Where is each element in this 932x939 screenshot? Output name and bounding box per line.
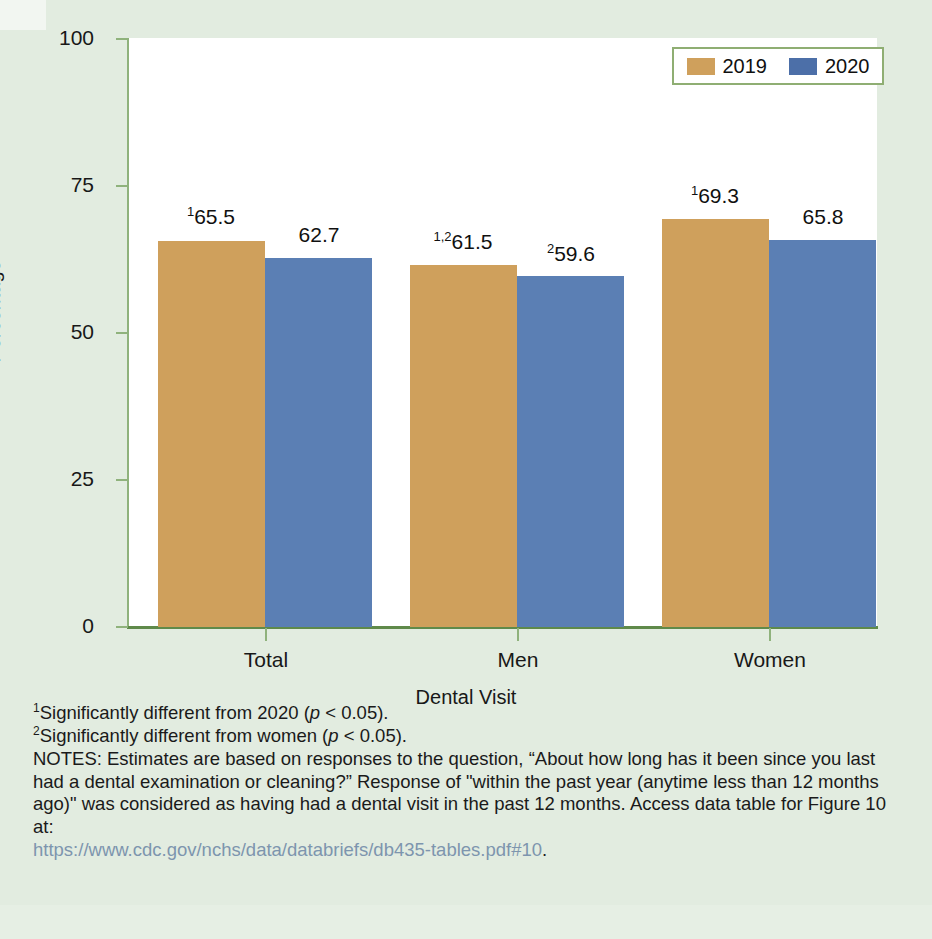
bar-value: 65.5 — [194, 205, 235, 228]
footnote-1: 1Significantly different from 2020 (p < … — [33, 702, 899, 725]
y-tick-100 — [116, 38, 128, 40]
footnote-2-text-b: < 0.05). — [339, 725, 407, 746]
x-tick-men — [517, 628, 519, 641]
bar-men-2019 — [410, 265, 517, 627]
y-tick-25 — [116, 479, 128, 481]
paper-edge-bottom — [0, 905, 932, 939]
x-tick-women — [769, 628, 771, 641]
legend: 2019 2020 — [672, 47, 884, 85]
y-tick-50 — [116, 332, 128, 334]
y-tick-label-50: 50 — [14, 320, 94, 344]
legend-swatch-icon-2020 — [789, 58, 817, 75]
footnote-2: 2Significantly different from women (p <… — [33, 725, 899, 748]
legend-label-2019: 2019 — [723, 55, 768, 78]
x-tick-label-men: Men — [418, 648, 618, 672]
bar-men-2020 — [517, 276, 624, 627]
y-tick-label-100: 100 — [14, 26, 94, 50]
y-axis-title: Percentage — [0, 260, 5, 362]
y-tick-75 — [116, 185, 128, 187]
footnote-2-p: p — [328, 725, 338, 746]
footnote-2-text-a: Significantly different from women ( — [40, 725, 329, 746]
y-tick-label-75: 75 — [14, 173, 94, 197]
legend-entry-2020[interactable]: 2020 — [789, 55, 870, 78]
bar-value: 65.8 — [803, 205, 844, 228]
footnote-1-text-a: Significantly different from 2020 ( — [40, 702, 310, 723]
footnote-1-p: p — [310, 702, 320, 723]
footnote-1-mark: 1 — [33, 701, 40, 715]
bar-value: 59.6 — [554, 242, 595, 265]
bar-label-women-2020: 65.8 — [738, 205, 908, 229]
y-tick-label-25: 25 — [14, 467, 94, 491]
legend-entry-2019[interactable]: 2019 — [687, 55, 768, 78]
figure-page: 100 75 50 25 0 Percentage 165.5 62.7 1,2… — [0, 0, 932, 939]
notes-url-line: https://www.cdc.gov/nchs/data/databriefs… — [33, 839, 899, 862]
notes-url-period: . — [542, 839, 547, 860]
bar-total-2019 — [158, 241, 265, 627]
x-tick-label-women: Women — [670, 648, 870, 672]
bar-label-men-2020: 259.6 — [486, 242, 656, 266]
x-tick-label-total: Total — [166, 648, 366, 672]
notes-body: NOTES: Estimates are based on responses … — [33, 748, 899, 839]
bar-total-2020 — [265, 258, 372, 627]
bar-women-2019 — [662, 219, 769, 627]
figure-notes: 1Significantly different from 2020 (p < … — [33, 702, 899, 862]
footnote-1-text-b: < 0.05). — [320, 702, 388, 723]
legend-label-2020: 2020 — [825, 55, 870, 78]
y-tick-0 — [116, 626, 128, 628]
x-tick-total — [265, 628, 267, 641]
y-tick-label-0: 0 — [14, 614, 94, 638]
bar-women-2020 — [769, 240, 876, 627]
footnote-2-mark: 2 — [33, 724, 40, 738]
bar-value: 62.7 — [299, 223, 340, 246]
bar-value: 69.3 — [698, 184, 739, 207]
footnote-mark: 1,2 — [434, 229, 452, 244]
data-table-link[interactable]: https://www.cdc.gov/nchs/data/databriefs… — [33, 839, 542, 860]
legend-swatch-icon-2019 — [687, 58, 715, 75]
